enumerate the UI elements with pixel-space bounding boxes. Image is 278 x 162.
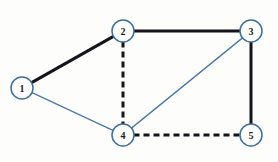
node-circle-1: [11, 77, 33, 99]
node-circle-4: [112, 124, 134, 146]
thin-edge-layer: [32, 38, 243, 131]
node-circle-2: [112, 20, 134, 42]
edge-3-4: [131, 38, 243, 129]
thick-edge-layer: [31, 31, 251, 135]
graph-diagram: 12345: [0, 0, 278, 162]
node-5[interactable]: 5: [240, 124, 262, 146]
node-2[interactable]: 2: [112, 20, 134, 42]
edge-1-2: [31, 36, 114, 83]
node-4[interactable]: 4: [112, 124, 134, 146]
node-1[interactable]: 1: [11, 77, 33, 99]
node-layer: 12345: [11, 20, 262, 146]
graph-canvas: 12345: [0, 0, 278, 162]
node-3[interactable]: 3: [240, 20, 262, 42]
edge-1-4: [32, 92, 114, 130]
node-circle-5: [240, 124, 262, 146]
node-circle-3: [240, 20, 262, 42]
